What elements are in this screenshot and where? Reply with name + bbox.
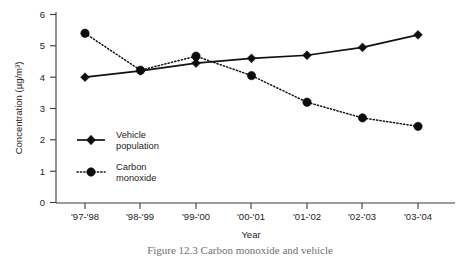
data-point [247, 54, 256, 63]
series-markers-carbon-monoxide [81, 29, 422, 130]
legend-swatch-marker-circle-icon [87, 168, 95, 176]
legend-label-vehicle-line2: population [116, 141, 159, 151]
y-tick-label-2: 2 [40, 134, 45, 145]
x-tick-label-1: '98-'99 [126, 211, 154, 222]
x-tick-label-2: '99-'00 [182, 211, 210, 222]
y-tick-label-3: 3 [40, 103, 45, 114]
x-tick-label-5: '02-'03 [348, 211, 376, 222]
data-point [358, 43, 367, 52]
data-point [414, 122, 422, 130]
data-point [414, 30, 423, 39]
y-tick-label-5: 5 [40, 40, 45, 51]
x-tick-label-6: '03-'04 [404, 211, 432, 222]
legend-label-carbon-line1: Carbon [116, 162, 147, 172]
y-tick-label-1: 1 [40, 166, 45, 177]
data-point [303, 98, 311, 106]
figure-caption: Figure 12.3 Carbon monoxide and vehicle [147, 244, 333, 256]
line-chart: 0 1 2 3 4 5 6 Concentration (µg/m³) '97-… [0, 0, 469, 256]
data-point [303, 51, 312, 60]
data-point [81, 29, 89, 37]
legend-label-vehicle-line1: Vehicle [116, 130, 146, 140]
x-axis-title: Year [241, 229, 260, 240]
data-point [192, 59, 201, 68]
x-tick-label-0: '97-'98 [71, 211, 99, 222]
figure-container: 0 1 2 3 4 5 6 Concentration (µg/m³) '97-… [0, 0, 469, 256]
y-tick-label-0: 0 [40, 197, 45, 208]
x-tick-label-3: '00-'01 [237, 211, 265, 222]
data-point [358, 114, 366, 122]
x-tick-label-4: '01-'02 [293, 211, 321, 222]
data-point [247, 71, 255, 79]
y-tick-label-6: 6 [40, 9, 45, 20]
y-tick-label-4: 4 [40, 72, 45, 83]
data-point [81, 73, 90, 82]
chart-legend: Vehicle population Carbon monoxide [77, 130, 159, 184]
legend-swatch-marker-diamond-icon [87, 135, 96, 145]
x-axis-ticks [85, 203, 418, 209]
y-axis-ticks [50, 15, 56, 203]
y-axis-title: Concentration (µg/m³) [13, 62, 24, 155]
legend-label-carbon-line2: monoxide [116, 173, 156, 183]
